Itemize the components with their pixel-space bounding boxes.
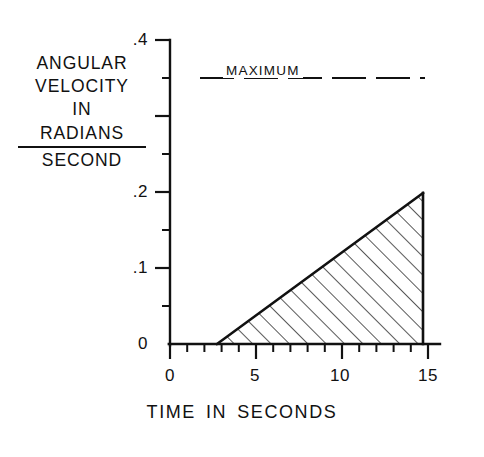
chart-figure: ANGULAR VELOCITY IN RADIANS SECOND .4 .2… xyxy=(0,0,484,457)
data-area-hatched xyxy=(217,193,423,344)
maximum-annotation-label: MAXIMUM xyxy=(223,63,303,78)
x-major-ticks xyxy=(170,344,428,359)
